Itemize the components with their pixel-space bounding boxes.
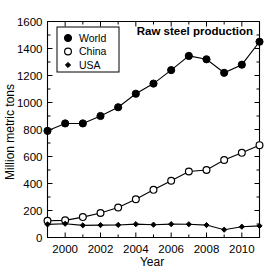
y-tick-label: 800 (23, 124, 42, 136)
data-point-world (150, 80, 157, 87)
y-tick-label: 200 (23, 205, 42, 217)
y-axis-title: Million metric tons (3, 84, 17, 180)
legend-marker-world (64, 34, 71, 41)
y-tick-label: 1000 (17, 97, 43, 109)
legend: WorldChinaUSA (57, 27, 119, 72)
raw-steel-production-line-chart: 02004006008001000120014001600 2000200220… (0, 0, 274, 272)
y-tick-label: 600 (23, 151, 42, 163)
x-tick-label: 2010 (229, 243, 255, 255)
x-tick-label: 2006 (158, 243, 184, 255)
data-point-china (256, 142, 263, 149)
data-point-world (168, 67, 175, 74)
data-point-world (221, 69, 228, 76)
data-point-world (238, 61, 245, 68)
chart-figure: 02004006008001000120014001600 2000200220… (0, 0, 274, 272)
legend-marker-china (65, 48, 72, 55)
y-tick-label: 1400 (17, 43, 43, 55)
y-tick-label: 1600 (17, 16, 43, 28)
y-tick-label: 0 (36, 232, 42, 244)
chart-title: Raw steel production (137, 25, 253, 37)
y-tick-label: 1200 (17, 70, 43, 82)
data-point-world (62, 120, 69, 127)
legend-label-world: World (79, 32, 106, 44)
legend-label-china: China (79, 45, 107, 57)
y-tick-label: 400 (23, 178, 42, 190)
data-point-china (150, 186, 157, 193)
x-axis-title: Year (140, 255, 164, 269)
data-point-world (185, 52, 192, 59)
data-point-china (168, 177, 175, 184)
data-point-world (132, 90, 139, 97)
legend-label-usa: USA (79, 59, 101, 71)
data-point-china (132, 196, 139, 203)
data-point-china (79, 214, 86, 221)
x-tick-label: 2002 (88, 243, 114, 255)
data-point-china (221, 157, 228, 164)
data-point-china (238, 149, 245, 156)
data-point-china (185, 168, 192, 175)
x-tick-label: 2004 (123, 243, 149, 255)
data-point-world (115, 104, 122, 111)
data-point-china (97, 210, 104, 217)
data-point-world (256, 38, 263, 45)
data-point-world (79, 120, 86, 127)
data-point-china (203, 167, 210, 174)
data-point-world (44, 127, 51, 134)
data-point-china (115, 204, 122, 211)
x-tick-label: 2000 (52, 243, 78, 255)
x-tick-label: 2008 (194, 243, 220, 255)
data-point-world (97, 112, 104, 119)
data-point-world (203, 56, 210, 63)
